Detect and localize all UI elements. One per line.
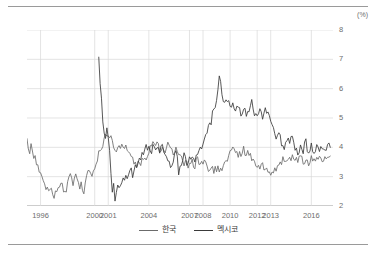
bottom-divider (8, 244, 368, 245)
x-tick-label: 2013 (262, 212, 279, 220)
legend-item-label: 멕시코 (217, 226, 238, 234)
y-tick-label: 4 (339, 143, 343, 151)
y-tick-label: 3 (339, 173, 343, 181)
x-tick-label: 2010 (222, 212, 239, 220)
line-swatch-icon (194, 230, 213, 231)
line-swatch-icon (139, 230, 158, 231)
series-line (99, 57, 331, 201)
chart-legend: 한국멕시코 (0, 226, 376, 234)
series-line (27, 134, 330, 198)
x-tick-label: 2004 (141, 212, 158, 220)
legend-item[interactable]: 멕시코 (194, 226, 238, 234)
x-tick-label: 2001 (100, 212, 117, 220)
chart-figure: (%) 2345678 1996200020012004200720082010… (0, 0, 376, 253)
y-tick-label: 6 (339, 85, 343, 93)
legend-item-label: 한국 (162, 226, 176, 234)
x-tick-label: 1996 (32, 212, 49, 220)
y-tick-label: 7 (339, 55, 343, 63)
y-tick-label: 2 (339, 202, 343, 210)
x-tick-label: 2016 (303, 212, 320, 220)
y-tick-label: 8 (339, 26, 343, 34)
top-divider (8, 6, 368, 7)
legend-item[interactable]: 한국 (139, 226, 176, 234)
y-tick-label: 5 (339, 114, 343, 122)
plot-area (27, 30, 333, 206)
y-axis-unit-label: (%) (357, 11, 368, 18)
x-tick-label: 2008 (195, 212, 212, 220)
